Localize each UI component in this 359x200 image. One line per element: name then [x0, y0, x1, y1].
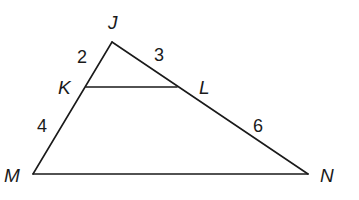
vertex-label-m: M — [4, 165, 20, 186]
triangle-diagram: J K L M N 2 3 4 6 — [0, 0, 359, 200]
length-label-jk: 2 — [77, 47, 87, 67]
vertex-label-k: K — [58, 77, 72, 98]
side-jm — [33, 42, 112, 174]
length-label-km: 4 — [37, 116, 47, 136]
side-jn — [112, 42, 308, 174]
length-label-ln: 6 — [253, 116, 263, 136]
vertex-label-j: J — [107, 12, 118, 33]
length-label-jl: 3 — [154, 45, 164, 65]
vertex-label-n: N — [320, 165, 334, 186]
vertex-label-l: L — [199, 77, 210, 98]
